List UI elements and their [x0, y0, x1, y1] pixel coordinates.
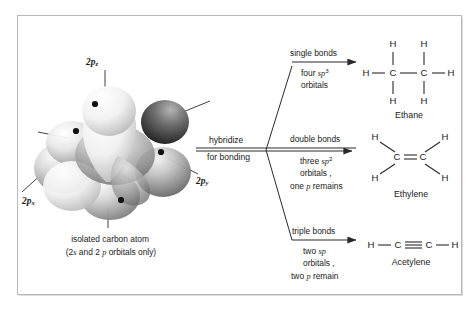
double-line2-pre: three: [300, 156, 321, 166]
ethylene-name: Ethylene: [380, 189, 442, 199]
ethylene-h-top-left: H: [370, 131, 380, 142]
branch-double-line4: one p remains: [290, 181, 343, 191]
single-line2-pre: four: [301, 68, 318, 78]
double-line2-superscript: 2: [329, 155, 332, 162]
double-line4-pre: one: [290, 181, 306, 191]
hybridize-above-label: hybridize: [209, 136, 243, 146]
triple-line4-post: remain: [311, 271, 339, 281]
ethane-h-bottom-right: H: [419, 95, 429, 106]
hybridize-below-label: for bonding: [207, 153, 250, 163]
triple-line2-pre: two: [303, 246, 318, 256]
orbital-caption-line2: (2s and 2 p orbitals only): [26, 247, 196, 257]
branch-single-line2: four sp3: [301, 67, 329, 78]
ethane-h-top-left: H: [388, 38, 398, 49]
branch-double-line3: orbitals ,: [300, 168, 332, 178]
branch-triple-line4: two p remain: [291, 271, 339, 281]
ethane-c-left: C: [388, 67, 398, 78]
double-line2-orbital: sp: [321, 157, 328, 166]
single-line2-superscript: 3: [325, 67, 328, 74]
ethylene-h-top-right: H: [440, 131, 450, 142]
triple-line2-orbital: sp: [318, 247, 325, 256]
ethylene-h-bottom-right: H: [440, 172, 450, 183]
branch-single-line3: orbitals: [301, 80, 328, 90]
branch-double-heading: double bonds: [290, 134, 340, 144]
ethylene-c-left: C: [392, 151, 402, 162]
ethane-name: Ethane: [379, 110, 439, 120]
branch-double-line2: three sp2: [300, 155, 332, 166]
caption-suffix: orbitals only): [106, 247, 156, 257]
acetylene-c-left: C: [393, 239, 403, 250]
acetylene-h-left: H: [366, 239, 376, 250]
acetylene-c-right: C: [424, 239, 434, 250]
label-2pz: 2pz: [86, 57, 98, 67]
ethane-h-bottom-left: H: [388, 95, 398, 106]
label-2py: 2py: [196, 176, 208, 186]
triple-line4-pre: two: [291, 271, 306, 281]
ethylene-h-bottom-left: H: [370, 172, 380, 183]
branch-single-heading: single bonds: [290, 48, 337, 58]
label-2px: 2px: [22, 196, 35, 206]
acetylene-h-right: H: [450, 239, 460, 250]
branch-triple-line3: orbitals ,: [303, 258, 335, 268]
ethane-h-right: H: [446, 67, 456, 78]
orbital-caption-line1: isolated carbon atom: [30, 234, 190, 244]
ethane-h-left: H: [361, 67, 371, 78]
ethane-h-top-right: H: [419, 38, 429, 49]
acetylene-name: Acetylene: [378, 257, 444, 267]
branch-triple-heading: triple bonds: [292, 226, 335, 236]
ethylene-c-right: C: [418, 151, 428, 162]
double-line4-post: remains: [311, 181, 343, 191]
ethane-c-right: C: [419, 67, 429, 78]
caption-mid: and 2: [77, 247, 103, 257]
figure-canvas: 2pz 2px 2py isolated carbon atom (2s and…: [0, 0, 476, 314]
branch-triple-line2: two sp: [303, 245, 326, 256]
